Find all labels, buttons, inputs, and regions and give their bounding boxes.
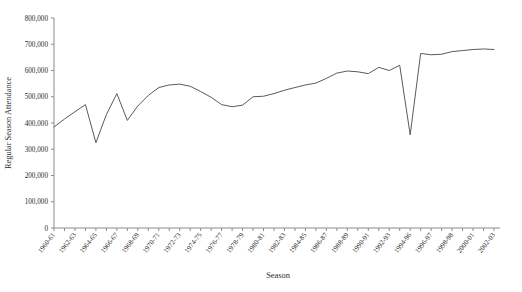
- y-axis: 0100,000200,000300,000400,000500,000600,…: [25, 15, 54, 233]
- x-axis-tick-label: 2000-01: [455, 231, 476, 255]
- x-axis-tick-label: 1978-79: [225, 231, 246, 255]
- y-axis-tick-label: 400,000: [25, 120, 49, 128]
- y-axis-tick-label: 200,000: [25, 172, 49, 180]
- x-axis: 1960-611962-631964-651966-671968-691970-…: [36, 228, 500, 255]
- y-axis-tick-label: 500,000: [25, 93, 49, 101]
- y-axis-tick-label: 100,000: [25, 198, 49, 206]
- x-axis-tick-label: 1960-61: [36, 231, 57, 255]
- x-axis-tick-label: 1992-93: [372, 231, 393, 255]
- x-axis-tick-label: 1984-85: [288, 231, 309, 255]
- x-axis-title: Season: [266, 271, 291, 280]
- x-axis-tick-label: 1970-71: [141, 231, 162, 255]
- y-axis-tick-label: 0: [44, 225, 48, 233]
- attendance-series-line: [54, 49, 494, 143]
- attendance-line-chart: 0100,000200,000300,000400,000500,000600,…: [0, 0, 522, 292]
- x-axis-tick-label: 1994-96: [393, 231, 414, 255]
- x-axis-tick-label: 1980-81: [246, 231, 267, 255]
- x-axis-tick-label: 1968-69: [120, 231, 141, 255]
- x-axis-tick-label: 1974-75: [183, 231, 204, 255]
- x-axis-tick-label: 1964-65: [78, 231, 99, 255]
- y-axis-tick-label: 800,000: [25, 15, 49, 23]
- x-axis-tick-label: 1988-89: [330, 231, 351, 255]
- chart-canvas: 0100,000200,000300,000400,000500,000600,…: [0, 0, 522, 292]
- y-axis-tick-label: 600,000: [25, 67, 49, 75]
- x-axis-tick-label: 1962-63: [57, 231, 78, 255]
- x-axis-tick-label: 1996-97: [414, 231, 435, 255]
- x-axis-tick-label: 1982-83: [267, 231, 288, 255]
- y-axis-tick-label: 300,000: [25, 146, 49, 154]
- x-axis-tick-label: 1998-98: [434, 231, 455, 255]
- y-axis-tick-label: 700,000: [25, 41, 49, 49]
- x-axis-tick-label: 1976-77: [204, 231, 225, 255]
- y-axis-title: Regular Season Attendance: [4, 77, 13, 169]
- x-axis-tick-label: 1990-91: [351, 231, 372, 255]
- x-axis-tick-label: 1972-73: [162, 231, 183, 255]
- x-axis-tick-label: 1986-87: [309, 231, 330, 255]
- x-axis-tick-label: 1966-67: [99, 231, 120, 255]
- x-axis-tick-label: 2002-03: [476, 231, 497, 255]
